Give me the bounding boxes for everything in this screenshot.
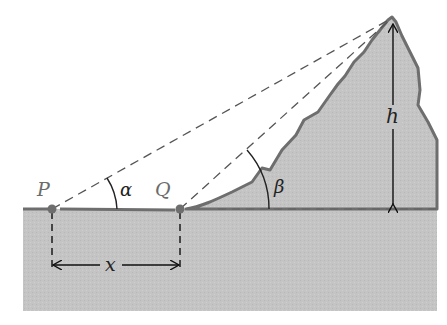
label-x: x	[105, 253, 116, 275]
label-beta: β	[273, 176, 284, 197]
point-p-marker	[48, 205, 57, 214]
ground-surface	[23, 209, 186, 210]
ground	[23, 209, 437, 311]
angle-alpha-arc	[107, 178, 117, 209]
label-q: Q	[155, 178, 171, 200]
label-h: h	[386, 104, 399, 128]
label-alpha: α	[120, 179, 132, 200]
point-q-marker	[176, 205, 185, 214]
label-p: P	[36, 178, 51, 200]
mountain-height-diagram: P Q α β h x	[0, 0, 447, 325]
